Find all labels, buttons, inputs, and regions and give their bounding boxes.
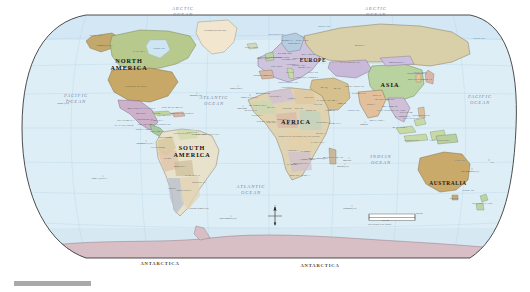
region-sudan-tint [300,110,322,130]
landmass-madagascar [329,148,336,164]
scale-bar: 2000 mi 2000 km Scale accurate at the Eq… [368,212,424,226]
ocean-layer [0,0,530,292]
region-libya-egypt-tint [294,90,316,104]
landmass-png [436,134,458,144]
scale-top-label: 2000 mi [416,212,423,214]
bottom-grey-bar [14,281,91,286]
region-southern-africa-tint [288,152,312,172]
scale-bottom-label: 2000 km [382,219,389,221]
region-drc-tint [288,132,312,150]
region-bolivia-tint [174,160,194,176]
landmass-mongolia [380,56,414,66]
landmass-korea [416,74,421,82]
compass-north-label: N [274,205,276,207]
world-map-container: ARCTICOCEANARCTICOCEANPACIFICOCEANPACIFI… [0,0,530,292]
world-map-graphic [0,0,530,292]
scale-note: Scale accurate at the Equator [368,223,391,225]
landmass-tasmania [452,195,458,200]
compass-rose: N [266,205,284,227]
landmass-philippines [418,107,425,118]
region-west-africa-tint [252,100,276,114]
landmass-new-zealand-south [476,203,484,210]
landmass-iceland [247,43,258,49]
landmass-hispaniola [172,112,185,117]
region-nigeria-tint [276,112,298,128]
